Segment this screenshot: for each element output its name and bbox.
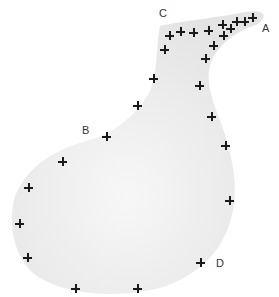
plus-marker-icon xyxy=(207,112,216,121)
plus-marker-icon xyxy=(160,45,169,54)
plus-marker-icon xyxy=(165,31,174,40)
label-a: A xyxy=(262,23,269,34)
plus-marker-icon xyxy=(221,141,230,150)
plus-marker-icon xyxy=(15,219,24,228)
plus-marker-icon xyxy=(102,132,111,141)
plus-marker-icon xyxy=(189,28,198,37)
plus-marker-icon xyxy=(225,196,234,205)
plus-marker-icon xyxy=(71,284,80,293)
plus-marker-icon xyxy=(204,26,213,35)
plus-marker-icon xyxy=(133,101,142,110)
plus-marker-icon xyxy=(58,157,67,166)
label-b: B xyxy=(82,125,89,136)
plus-marker-icon xyxy=(248,13,257,22)
plus-marker-icon xyxy=(149,74,158,83)
plus-marker-icon xyxy=(176,27,185,36)
plus-marker-icon xyxy=(24,183,33,192)
plus-marker-icon xyxy=(219,31,228,40)
plus-marker-icon xyxy=(201,54,210,63)
plus-marker-icon xyxy=(196,258,205,267)
plus-marker-icon xyxy=(23,253,32,262)
label-d: D xyxy=(216,258,224,269)
plus-marker-icon xyxy=(209,41,218,50)
plus-marker-icon xyxy=(195,81,204,90)
shape-outline xyxy=(0,0,279,297)
plus-marker-icon xyxy=(133,284,142,293)
label-c: C xyxy=(159,8,167,19)
